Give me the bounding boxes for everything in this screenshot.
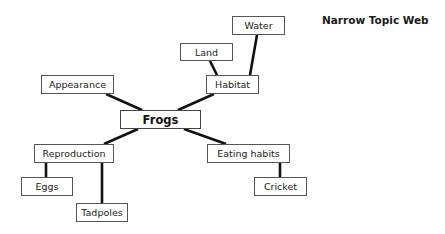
diagram-title: Narrow Topic Web [322,14,429,26]
node-appearance: Appearance [41,75,114,94]
node-habitat-label: Habitat [215,79,250,90]
node-tadpoles-label: Tadpoles [81,207,122,218]
node-tadpoles: Tadpoles [76,203,128,222]
node-land: Land [180,43,233,61]
node-eggs-label: Eggs [35,181,58,192]
topic-web-connectors [0,0,445,234]
node-cricket: Cricket [254,177,307,196]
node-eating-habits: Eating habits [207,144,290,163]
node-land-label: Land [195,47,218,58]
edge-habitat-water [250,35,257,75]
node-frogs-center: Frogs [120,110,201,129]
node-eating-habits-label: Eating habits [217,148,279,159]
node-frogs-label: Frogs [143,113,179,127]
edge-habitat-land [210,61,217,75]
node-habitat: Habitat [206,75,259,94]
edge-frogs-eating-habits [184,129,226,144]
node-eggs: Eggs [21,177,73,196]
node-water-label: Water [244,20,272,31]
edge-frogs-appearance [106,94,142,110]
node-water: Water [232,16,285,35]
node-cricket-label: Cricket [264,181,297,192]
node-appearance-label: Appearance [49,79,106,90]
edge-frogs-habitat [178,94,214,110]
edge-frogs-reproduction [104,129,138,144]
node-reproduction-label: Reproduction [42,148,105,159]
node-reproduction: Reproduction [34,144,114,163]
